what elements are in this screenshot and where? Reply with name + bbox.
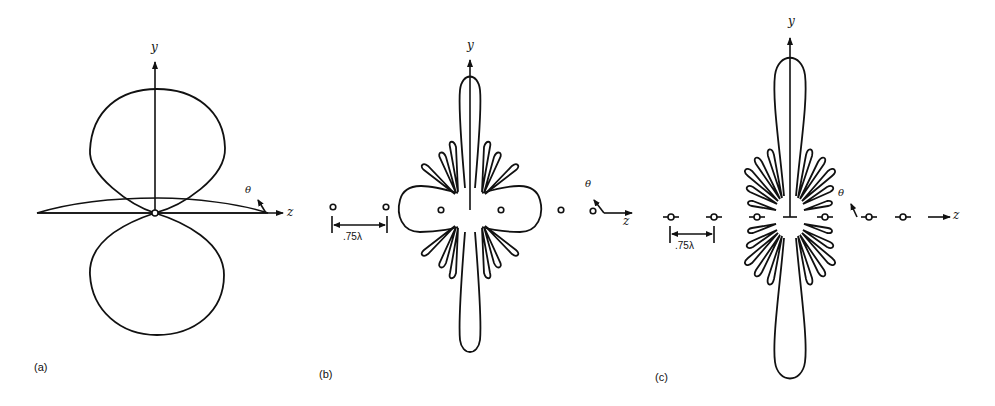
panel-b-theta-label: θ	[585, 178, 591, 189]
panel-b-label: (b)	[319, 368, 332, 380]
panel-c-theta-label: θ	[838, 187, 844, 198]
panel-b-z-label: z	[623, 214, 629, 228]
panel-b-spacing-label: .75λ	[343, 231, 362, 242]
panel-c-spacing-label: .75λ	[675, 240, 694, 251]
panel-c-label: (c)	[655, 371, 668, 383]
panel-a-theta-label: θ	[245, 184, 251, 195]
panel-c-axes	[783, 38, 950, 217]
panel-a-label: (a)	[34, 361, 47, 373]
panel-c-y-label: y	[788, 14, 795, 28]
panel-b-elements	[330, 204, 596, 214]
panel-a-z-label: z	[287, 205, 293, 219]
panel-b-y-label: y	[467, 38, 474, 52]
figure-canvas	[0, 0, 995, 406]
panel-a-y-label: y	[151, 40, 158, 54]
panel-c-z-label: z	[953, 208, 959, 222]
